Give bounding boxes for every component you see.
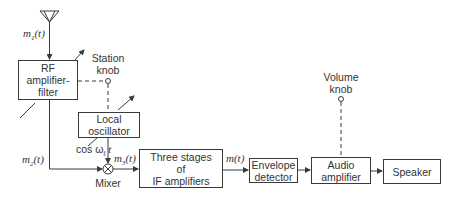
audio-amplifier-block: Audio amplifier	[311, 157, 371, 184]
signal-m3-label: m3(t)	[114, 152, 136, 167]
signal-m-label: m(t)	[226, 152, 244, 164]
speaker-block: Speaker	[383, 159, 441, 184]
volume-knob-label: Volume knob	[318, 71, 364, 95]
station-knob-label: Station knob	[86, 52, 130, 76]
antenna-icon	[40, 11, 59, 22]
mixer-label: Mixer	[93, 177, 123, 189]
signal-m1-label: m1(t)	[23, 27, 45, 42]
rf-amplifier-filter-block: RF amplifier- filter	[18, 60, 78, 100]
envelope-detector-block: Envelope detector	[249, 158, 298, 183]
if-amplifiers-block: Three stages of IF amplifiers	[139, 149, 223, 188]
signal-m2-label: m2(t)	[22, 153, 44, 168]
lo-signal-label: cos ωℓ t	[76, 143, 111, 157]
local-oscillator-block: Local oscillator	[78, 112, 140, 138]
